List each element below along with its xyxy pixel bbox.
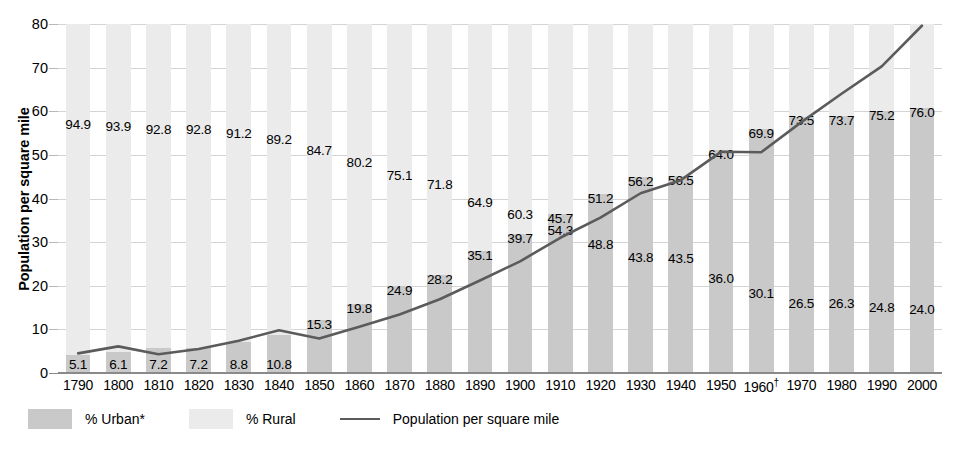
x-axis-line bbox=[58, 372, 942, 373]
legend-label-line: Population per square mile bbox=[393, 411, 560, 427]
x-tick-label: 1900 bbox=[505, 377, 535, 393]
chart-legend: % Urban* % Rural Population per square m… bbox=[28, 409, 603, 429]
y-tick-mark bbox=[49, 373, 58, 374]
x-tick-label: 1870 bbox=[385, 377, 415, 393]
x-tick-label: 1860 bbox=[344, 377, 374, 393]
rural-swatch-icon bbox=[189, 409, 233, 429]
legend-item-urban: % Urban* bbox=[28, 409, 189, 429]
y-tick-label: 20 bbox=[16, 278, 48, 294]
x-tick-label: 1890 bbox=[465, 377, 495, 393]
x-tick-label: 1960† bbox=[744, 377, 779, 395]
y-tick-mark bbox=[49, 329, 58, 330]
x-tick-label: 1910 bbox=[545, 377, 575, 393]
x-tick-label: 1920 bbox=[585, 377, 615, 393]
x-tick-label: 1820 bbox=[184, 377, 214, 393]
y-tick-label: 40 bbox=[16, 191, 48, 207]
x-tick-label: 1840 bbox=[264, 377, 294, 393]
population-density-line bbox=[58, 24, 942, 373]
x-tick-label: 1850 bbox=[304, 377, 334, 393]
legend-label-urban: % Urban* bbox=[85, 411, 145, 427]
y-tick-mark bbox=[49, 155, 58, 156]
y-tick-label: 0 bbox=[16, 365, 48, 381]
x-tick-label: 1810 bbox=[143, 377, 173, 393]
x-tick-label: 1990 bbox=[867, 377, 897, 393]
y-tick-mark bbox=[49, 242, 58, 243]
x-tick-label: 2000 bbox=[907, 377, 937, 393]
x-tick-label: 1930 bbox=[626, 377, 656, 393]
legend-label-rural: % Rural bbox=[246, 411, 296, 427]
y-tick-mark bbox=[49, 68, 58, 69]
legend-item-line: Population per square mile bbox=[340, 411, 604, 427]
x-tick-label: 1790 bbox=[63, 377, 93, 393]
x-tick-label: 1950 bbox=[706, 377, 736, 393]
y-tick-mark bbox=[49, 286, 58, 287]
y-tick-label: 30 bbox=[16, 234, 48, 250]
x-tick-label: 1940 bbox=[666, 377, 696, 393]
x-tick-label: 1980 bbox=[827, 377, 857, 393]
y-tick-label: 80 bbox=[16, 16, 48, 32]
x-tick-label: 1880 bbox=[425, 377, 455, 393]
y-tick-mark bbox=[49, 111, 58, 112]
y-tick-label: 70 bbox=[16, 60, 48, 76]
plot-area: 5.194.96.193.97.292.87.292.88.891.210.88… bbox=[58, 24, 942, 373]
urban-swatch-icon bbox=[28, 409, 72, 429]
line-path bbox=[78, 26, 922, 354]
y-tick-label: 10 bbox=[16, 321, 48, 337]
y-tick-label: 50 bbox=[16, 147, 48, 163]
population-density-chart: Population per square mile 5.194.96.193.… bbox=[0, 0, 962, 450]
x-tick-label: 1970 bbox=[786, 377, 816, 393]
legend-item-rural: % Rural bbox=[189, 409, 340, 429]
y-tick-mark bbox=[49, 24, 58, 25]
x-tick-label: 1800 bbox=[103, 377, 133, 393]
line-swatch-icon bbox=[340, 418, 380, 420]
y-tick-label: 60 bbox=[16, 103, 48, 119]
y-tick-mark bbox=[49, 199, 58, 200]
x-tick-label: 1830 bbox=[224, 377, 254, 393]
